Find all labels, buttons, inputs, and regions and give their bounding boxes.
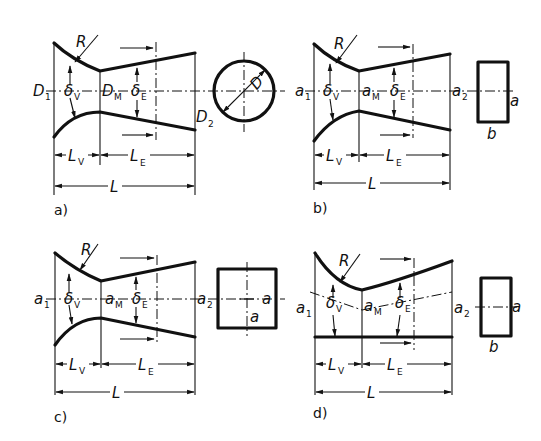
radius-label: R bbox=[76, 33, 86, 51]
angle-inlet-label: δ bbox=[64, 290, 73, 308]
length-outlet-sub: E bbox=[397, 367, 403, 377]
section-bottom-label: b bbox=[487, 125, 497, 143]
throat-sub: M bbox=[114, 92, 122, 102]
diameter-label: D bbox=[246, 73, 267, 93]
inlet-label: a bbox=[296, 299, 305, 317]
outlet-sub: 2 bbox=[464, 309, 470, 319]
angle-arrow bbox=[397, 315, 400, 336]
length-total-label: L bbox=[368, 175, 376, 193]
outlet-label: D bbox=[196, 108, 208, 126]
inlet-label: a bbox=[34, 290, 43, 308]
panel-d: R a 1 δ V a M δ E a 2 L V L E L d) a b bbox=[296, 252, 521, 421]
outlet-sub: 2 bbox=[462, 92, 468, 102]
venturi-nozzle-diagram: R D 1 δ V D M δ E D 2 L V L E L a) D bbox=[0, 0, 541, 441]
length-total-label: L bbox=[112, 384, 120, 402]
inlet-sub: 1 bbox=[306, 309, 312, 319]
length-outlet-label: L bbox=[130, 147, 138, 165]
throat-sub: M bbox=[372, 92, 380, 102]
panel-caption: a) bbox=[54, 202, 68, 218]
length-outlet-sub: E bbox=[148, 367, 154, 377]
panel-a: R D 1 δ V D M δ E D 2 L V L E L a) D bbox=[33, 33, 285, 218]
section-side-label: a bbox=[512, 298, 521, 316]
angle-outlet-label: δ bbox=[390, 82, 399, 100]
length-outlet-label: L bbox=[387, 356, 395, 374]
angle-inlet-sub: V bbox=[336, 304, 343, 314]
length-total-label: L bbox=[367, 384, 375, 402]
length-outlet-label: L bbox=[138, 356, 146, 374]
throat-sub: M bbox=[115, 300, 123, 310]
throat-label: D bbox=[102, 82, 114, 100]
throat-label: a bbox=[105, 290, 114, 308]
angle-inlet-sub: V bbox=[333, 92, 340, 102]
radius-label: R bbox=[339, 252, 349, 270]
section-inner-label: a bbox=[250, 308, 259, 326]
angle-inlet-sub: V bbox=[74, 92, 81, 102]
angle-inlet-label: δ bbox=[323, 82, 332, 100]
panel-c: R a 1 δ V a M δ E a 2 L V L E L c) a a bbox=[34, 241, 285, 425]
angle-inlet-sub: V bbox=[74, 300, 81, 310]
length-inlet-label: L bbox=[328, 356, 336, 374]
angle-inlet-label: δ bbox=[64, 82, 73, 100]
angle-outlet-sub: E bbox=[141, 92, 147, 102]
outlet-sub: 2 bbox=[207, 300, 213, 310]
upper-contour bbox=[55, 253, 195, 281]
outlet-label: a bbox=[197, 290, 206, 308]
angle-arrow bbox=[330, 99, 333, 120]
length-inlet-sub: V bbox=[79, 366, 86, 376]
panel-b: R a 1 δ V a M δ E a 2 L V L E L b) a b bbox=[295, 35, 519, 216]
length-total-label: L bbox=[110, 178, 118, 196]
length-inlet-label: L bbox=[69, 356, 77, 374]
panel-caption: b) bbox=[313, 200, 327, 216]
angle-outlet-sub: E bbox=[405, 304, 411, 314]
rectangular-section bbox=[478, 62, 508, 122]
section-side-label: a bbox=[510, 92, 519, 110]
angle-arrow bbox=[333, 315, 335, 336]
length-inlet-sub: V bbox=[338, 366, 345, 376]
radius-label: R bbox=[81, 241, 91, 259]
panel-caption: d) bbox=[313, 405, 327, 421]
outlet-label: a bbox=[452, 82, 461, 100]
lower-contour bbox=[54, 112, 195, 137]
throat-sub: M bbox=[374, 307, 382, 317]
inlet-sub: 1 bbox=[44, 300, 50, 310]
section-bottom-label: b bbox=[489, 338, 499, 356]
angle-inlet-label: δ bbox=[326, 294, 335, 312]
lower-contour bbox=[314, 111, 450, 141]
length-inlet-sub: V bbox=[336, 157, 343, 167]
length-outlet-label: L bbox=[386, 147, 394, 165]
panel-caption: c) bbox=[54, 409, 67, 425]
length-outlet-sub: E bbox=[140, 158, 146, 168]
lower-contour bbox=[55, 318, 195, 345]
inlet-sub: 1 bbox=[305, 92, 311, 102]
throat-label: a bbox=[364, 297, 373, 315]
section-side-label: a bbox=[262, 290, 271, 308]
angle-outlet-sub: E bbox=[400, 92, 406, 102]
inlet-sub: 1 bbox=[45, 92, 51, 102]
length-outlet-sub: E bbox=[396, 158, 402, 168]
length-inlet-sub: V bbox=[78, 157, 85, 167]
angle-outlet-label: δ bbox=[131, 82, 140, 100]
outlet-label: a bbox=[454, 299, 463, 317]
radius-label: R bbox=[334, 35, 344, 53]
angle-outlet-sub: E bbox=[142, 300, 148, 310]
outlet-sub: 2 bbox=[208, 119, 214, 129]
angle-outlet-label: δ bbox=[132, 290, 141, 308]
throat-label: a bbox=[362, 82, 371, 100]
angle-outlet-label: δ bbox=[395, 294, 404, 312]
length-inlet-label: L bbox=[68, 147, 76, 165]
length-inlet-label: L bbox=[326, 147, 334, 165]
inlet-label: D bbox=[33, 82, 45, 100]
inlet-label: a bbox=[295, 82, 304, 100]
